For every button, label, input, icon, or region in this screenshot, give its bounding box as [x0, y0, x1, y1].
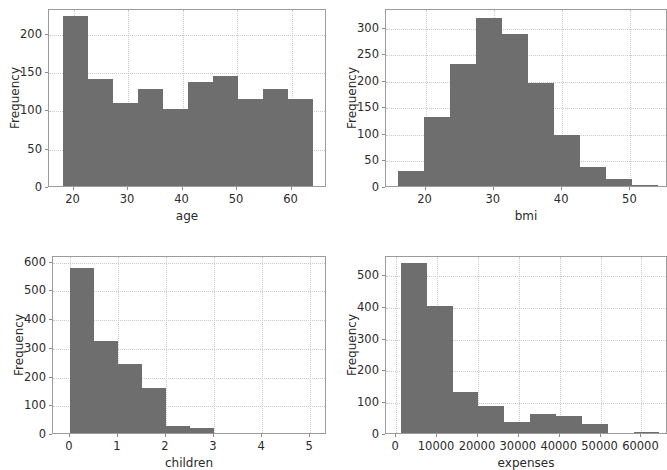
histogram-bar	[556, 416, 582, 433]
y-axis-label: Frequency	[345, 314, 359, 376]
x-tick-label: 40	[174, 192, 189, 206]
histogram-bar	[113, 103, 138, 186]
y-tick-mark	[382, 434, 385, 435]
plot-area-bmi	[385, 9, 667, 187]
histogram-bar	[263, 89, 288, 186]
y-tick-label: 500	[357, 268, 379, 282]
y-tick-label: 50	[27, 142, 42, 156]
y-tick-mark	[45, 149, 48, 150]
histogram-bar	[138, 89, 163, 186]
y-tick-mark	[49, 319, 52, 320]
x-tick-label: 4	[257, 439, 264, 453]
gridline-horizontal	[49, 73, 325, 74]
y-tick-mark	[382, 187, 385, 188]
y-tick-label: 100	[24, 398, 46, 412]
x-tick-mark	[73, 187, 74, 190]
x-axis-label: bmi	[515, 209, 538, 223]
plot-area-expenses	[385, 256, 667, 434]
x-tick-label: 20	[65, 192, 80, 206]
y-tick-mark	[382, 54, 385, 55]
x-tick-label: 60	[283, 192, 298, 206]
gridline-vertical	[310, 257, 311, 433]
y-tick-label: 150	[357, 100, 379, 114]
x-tick-label: 40000	[540, 439, 577, 453]
y-tick-mark	[382, 402, 385, 403]
y-tick-label: 100	[357, 127, 379, 141]
x-tick-mark	[165, 434, 166, 437]
x-tick-mark	[561, 187, 562, 190]
gridline-vertical	[214, 257, 215, 433]
x-tick-label: 1	[113, 439, 120, 453]
x-tick-mark	[629, 187, 630, 190]
y-tick-label: 300	[357, 21, 379, 35]
x-tick-mark	[117, 434, 118, 437]
x-axis-label: children	[165, 456, 213, 470]
histogram-bar	[606, 179, 632, 186]
subplot-age: 0501001502002030405060ageFrequency	[0, 0, 333, 232]
x-tick-mark	[69, 434, 70, 437]
x-tick-mark	[236, 187, 237, 190]
y-tick-label: 0	[35, 180, 42, 194]
histogram-bar	[213, 76, 238, 186]
histogram-bar	[580, 167, 606, 186]
y-axis-label: Frequency	[12, 314, 26, 376]
histogram-bar	[288, 99, 313, 186]
x-tick-mark	[395, 434, 396, 437]
x-tick-label: 50	[622, 192, 637, 206]
y-tick-label: 200	[24, 370, 46, 384]
y-tick-mark	[382, 339, 385, 340]
x-tick-mark	[436, 434, 437, 437]
x-tick-label: 0	[65, 439, 72, 453]
x-tick-mark	[291, 187, 292, 190]
gridline-vertical	[166, 257, 167, 433]
plot-area-age	[48, 9, 326, 187]
y-tick-label: 0	[39, 427, 46, 441]
x-tick-mark	[309, 434, 310, 437]
gridline-vertical	[262, 257, 263, 433]
y-tick-mark	[382, 28, 385, 29]
x-tick-mark	[182, 187, 183, 190]
histogram-bar	[632, 185, 658, 186]
x-tick-label: 30	[120, 192, 135, 206]
histogram-bar	[118, 364, 142, 433]
x-tick-label: 20	[417, 192, 432, 206]
x-tick-label: 3	[209, 439, 216, 453]
y-tick-label: 200	[357, 74, 379, 88]
y-tick-mark	[45, 34, 48, 35]
histogram-bar	[63, 16, 88, 186]
gridline-horizontal	[53, 263, 325, 264]
x-tick-label: 30000	[500, 439, 537, 453]
subplot-children: 0100200300400500600012345childrenFrequen…	[0, 232, 333, 464]
x-tick-label: 20000	[459, 439, 496, 453]
histogram-bar	[453, 392, 479, 433]
x-tick-label: 60000	[622, 439, 659, 453]
x-tick-mark	[518, 434, 519, 437]
x-tick-label: 0	[392, 439, 399, 453]
x-tick-label: 40	[554, 192, 569, 206]
histogram-bar	[401, 263, 427, 433]
y-tick-label: 100	[20, 103, 42, 117]
y-tick-mark	[382, 307, 385, 308]
y-tick-mark	[382, 107, 385, 108]
x-tick-mark	[493, 187, 494, 190]
y-tick-label: 200	[357, 363, 379, 377]
histogram-bar	[554, 135, 580, 186]
y-tick-mark	[49, 405, 52, 406]
y-tick-mark	[49, 262, 52, 263]
y-tick-label: 400	[24, 312, 46, 326]
y-tick-mark	[382, 160, 385, 161]
x-tick-label: 2	[161, 439, 168, 453]
y-tick-label: 250	[357, 47, 379, 61]
x-tick-label: 30	[486, 192, 501, 206]
y-tick-mark	[382, 134, 385, 135]
y-tick-label: 500	[24, 283, 46, 297]
x-tick-label: 5	[306, 439, 313, 453]
y-tick-mark	[45, 110, 48, 111]
histogram-bar	[166, 426, 190, 433]
y-tick-mark	[45, 72, 48, 73]
y-tick-label: 150	[20, 65, 42, 79]
gridline-horizontal	[386, 29, 666, 30]
histogram-bar	[504, 422, 530, 433]
y-tick-mark	[49, 348, 52, 349]
